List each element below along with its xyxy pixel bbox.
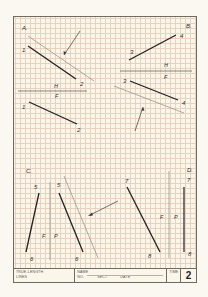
panel-d-point-7: 7 (125, 178, 129, 184)
panel-a-arrow-icon (64, 31, 80, 55)
panel-d-profile-point-7: 7 (187, 177, 191, 183)
panel-d: D. 7 8 F P 7 8 (125, 167, 193, 259)
panel-b-front-point-3: 3 (123, 78, 127, 84)
panel-d-profile-point-8: 8 (188, 251, 192, 257)
panel-a-front-point-1: 1 (22, 104, 25, 110)
panel-c-arrow-icon (90, 201, 118, 215)
panel-b-front-point-4: 4 (182, 100, 186, 106)
sheet-number: 2 (181, 269, 196, 282)
panel-a-front-line (29, 102, 77, 124)
panel-d-fold-f: F (160, 214, 164, 220)
panel-c-fold-p: P (54, 233, 58, 239)
panel-c-fold-f: F (42, 233, 46, 239)
panel-b-front-line (130, 81, 178, 100)
panel-d-point-8: 8 (148, 253, 152, 259)
drawing-layer: A. 1 2 H F 1 2 B. 4 3 H F 3 4 C. 5 6 F (0, 0, 208, 297)
panel-a-point-2: 2 (79, 81, 84, 87)
title-block: TRUE-LENGTH LINES NAME NO. SECT DATE TIM… (13, 268, 197, 283)
student-info-fields: NAME NO. SECT DATE (75, 269, 167, 282)
panel-d-front-line (127, 187, 160, 252)
arrowhead-icon (88, 213, 93, 217)
panel-d-label: D. (187, 167, 193, 173)
panel-c-profile-line (59, 193, 83, 252)
panel-a-front-point-2: 2 (76, 127, 81, 133)
panel-b-point-3: 3 (130, 49, 134, 55)
panel-b-fold-h: H (164, 62, 168, 68)
title-line-2: LINES (16, 275, 72, 280)
panel-c-front-line (26, 193, 39, 252)
panel-a: A. 1 2 H F 1 2 (18, 25, 94, 133)
panel-a-fold-h: H (54, 83, 58, 89)
time-field[interactable]: TIME (167, 269, 181, 282)
arrowhead-icon (142, 107, 145, 111)
panel-b-top-line (129, 35, 176, 60)
name-field-underline (87, 275, 163, 276)
panel-a-fold-f: F (55, 93, 59, 99)
panel-c-point-6: 6 (30, 256, 34, 262)
panel-b: B. 4 3 H F 3 4 (114, 23, 192, 131)
panel-a-top-line (28, 46, 76, 79)
panel-c: C. 5 6 F P 5 6 (26, 168, 118, 262)
panel-c-label: C. (26, 168, 32, 174)
panel-c-point-5: 5 (34, 184, 38, 190)
panel-b-label: B. (186, 23, 192, 29)
time-field-label: TIME (169, 270, 178, 275)
panel-b-fold-f: F (164, 74, 168, 80)
panel-b-arrow-icon (135, 107, 143, 131)
panel-a-point-1: 1 (22, 47, 25, 53)
panel-a-auxiliary-line (28, 36, 94, 81)
panel-d-fold-p: P (174, 214, 178, 220)
panel-b-point-4: 4 (180, 33, 184, 39)
worksheet-title: TRUE-LENGTH LINES (14, 269, 75, 282)
panel-b-auxiliary-line (114, 86, 184, 113)
panel-c-profile-point-5: 5 (57, 182, 61, 188)
panel-c-profile-point-6: 6 (75, 256, 79, 262)
number-field-label[interactable]: NO. (77, 275, 84, 280)
panel-a-label: A. (21, 25, 28, 31)
